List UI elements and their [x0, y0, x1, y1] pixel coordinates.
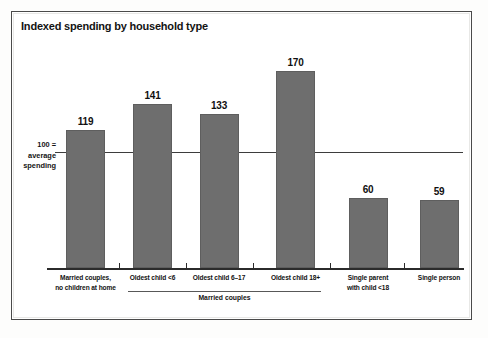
group-bracket-line — [128, 291, 321, 292]
reference-label-line-3: spending — [14, 161, 56, 172]
category-label-6-line-1: Single person — [400, 273, 478, 283]
category-label-4: Oldest child 18+ — [257, 273, 335, 283]
category-label-6: Single person — [400, 273, 478, 283]
reference-label-line-2: average — [14, 151, 56, 162]
group-bracket-label: Married couples — [128, 294, 321, 301]
reference-line-label: 100 =averagespending — [14, 140, 56, 172]
bar-3 — [200, 114, 239, 268]
bar-5 — [349, 198, 388, 268]
x-axis-tick-5 — [404, 263, 405, 268]
bar-value-label-2: 141 — [123, 90, 183, 101]
bar-value-label-4: 170 — [266, 57, 326, 68]
category-label-3-line-1: Oldest child 6–17 — [180, 273, 258, 283]
reference-line-100 — [55, 152, 463, 153]
category-label-5-line-1: Single parent — [329, 273, 407, 283]
bar-4 — [276, 71, 315, 268]
bar-2 — [133, 104, 172, 268]
x-axis-tick-4 — [330, 263, 331, 268]
bar-6 — [420, 200, 459, 268]
category-label-4-line-1: Oldest child 18+ — [257, 273, 335, 283]
category-label-5: Single parentwith child <18 — [329, 273, 407, 292]
x-axis-tick-3 — [253, 263, 254, 268]
bar-chart-plot: 100 =averagespending 1191411331706059 Ma… — [0, 0, 488, 338]
category-label-5-line-2: with child <18 — [329, 283, 407, 293]
category-label-3: Oldest child 6–17 — [180, 273, 258, 283]
bar-value-label-1: 119 — [56, 116, 116, 127]
x-axis-tick-1 — [119, 263, 120, 268]
x-axis-tick-2 — [186, 263, 187, 268]
bar-value-label-6: 59 — [409, 186, 469, 197]
bar-value-label-5: 60 — [338, 184, 398, 195]
figure-page: Indexed spending by household type 100 =… — [0, 0, 488, 338]
bar-1 — [66, 130, 105, 268]
category-label-1-line-2: no children at home — [47, 283, 125, 293]
reference-label-line-1: 100 = — [14, 140, 56, 151]
x-axis-baseline — [47, 268, 464, 270]
bar-value-label-3: 133 — [189, 100, 249, 111]
